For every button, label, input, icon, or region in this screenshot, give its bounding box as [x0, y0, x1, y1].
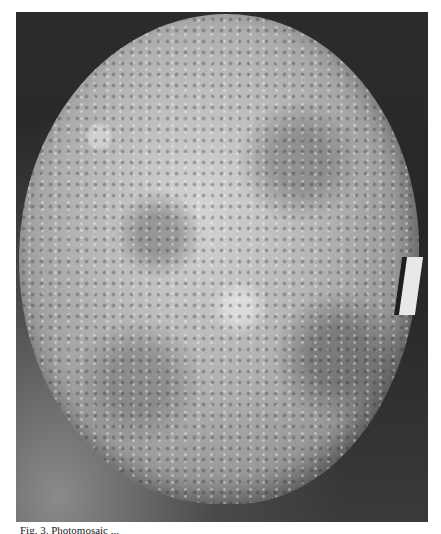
planet-mosaic [19, 14, 419, 504]
figure-caption: Fig. 3. Photomosaic ... [20, 525, 430, 534]
photograph [16, 12, 428, 522]
